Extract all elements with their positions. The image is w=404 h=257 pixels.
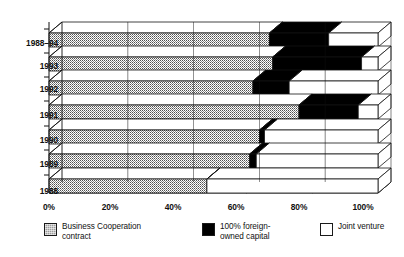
- bar-segment-4-2: [264, 130, 378, 144]
- bar-segment-3-1: [299, 105, 358, 119]
- bar-group-1990: [49, 119, 391, 144]
- x-tick-label-3: 60%: [219, 202, 253, 212]
- legend-item-joint-venture: Joint venture: [320, 222, 384, 236]
- bar-segment-2-1: [253, 81, 289, 95]
- bar-segment-0-1: [269, 33, 328, 47]
- bar-segment-3-0: [49, 105, 299, 119]
- legend-item-business-cooperation: Business Cooperation contract: [44, 222, 202, 242]
- x-tick-label-1: 20%: [93, 202, 127, 212]
- bar-segment-top-4-2: [264, 119, 391, 130]
- bar-segment-4-1: [260, 130, 265, 144]
- bar-segment-0-2: [329, 33, 378, 47]
- bar-segment-0-0: [49, 33, 269, 47]
- bar-segment-top-5-0: [49, 143, 263, 154]
- stacked-bar-plot: [0, 0, 404, 215]
- bar-segment-1-1: [273, 57, 362, 71]
- bar-segment-top-3-0: [49, 94, 312, 105]
- bar-group-1992: [49, 70, 391, 95]
- bar-segment-1-2: [362, 57, 378, 71]
- bar-segment-6-2: [207, 179, 378, 193]
- y-tick-label-4: 1990: [2, 135, 58, 145]
- y-tick-label-2: 1992: [2, 84, 58, 94]
- y-tick-label-5: 1989: [2, 159, 58, 169]
- y-tick-label-0: 1988–94: [2, 38, 58, 48]
- x-tick-label-5: 100%: [346, 202, 380, 212]
- bar-segment-top-0-0: [49, 22, 282, 33]
- bar-segment-5-2: [256, 154, 378, 168]
- x-tick-label-2: 40%: [156, 202, 190, 212]
- y-tick-label-3: 1991: [2, 110, 58, 120]
- bar-segment-top-5-2: [256, 143, 391, 154]
- bar-segment-3-2: [358, 105, 378, 119]
- legend-item-foreign-owned: 100% foreign- owned capital: [202, 222, 320, 242]
- bar-group-1993: [49, 46, 391, 71]
- y-tick-label-6: 1988: [2, 186, 58, 196]
- bar-group-1988: [49, 168, 391, 193]
- bar-segment-top-6-2: [207, 168, 391, 179]
- bar-segment-top-2-2: [289, 70, 391, 81]
- bar-segment-top-6-0: [49, 168, 220, 179]
- bar-segment-2-2: [289, 81, 378, 95]
- bar-segment-top-1-1: [273, 46, 375, 57]
- bar-segment-4-0: [49, 130, 260, 144]
- bar-segment-top-1-0: [49, 46, 286, 57]
- bar-segment-top-4-0: [49, 119, 273, 130]
- bar-group-1989: [49, 143, 391, 168]
- legend-label-business-cooperation: Business Cooperation contract: [62, 222, 141, 242]
- black-swatch: [202, 223, 215, 236]
- legend-label-joint-venture: Joint venture: [338, 222, 384, 232]
- white-swatch: [320, 223, 333, 236]
- x-tick-label-4: 80%: [282, 202, 316, 212]
- x-tick-label-0: 0%: [33, 202, 65, 212]
- bar-segment-2-0: [49, 81, 253, 95]
- bar-group-1991: [49, 94, 391, 119]
- bar-group-1988-94: [49, 22, 391, 47]
- legend-label-foreign-owned: 100% foreign- owned capital: [220, 222, 270, 242]
- y-tick-label-1: 1993: [2, 61, 58, 71]
- bar-segment-top-2-0: [49, 70, 266, 81]
- bar-segment-1-0: [49, 57, 273, 71]
- chart-root: 1988–94 1993 1992 1991 1990 1989 1988 0%…: [0, 0, 404, 257]
- bar-segment-5-1: [250, 154, 257, 168]
- bar-segment-5-0: [49, 154, 250, 168]
- gray-stipple-swatch: [44, 223, 57, 236]
- chart-legend: Business Cooperation contract 100% forei…: [44, 222, 396, 254]
